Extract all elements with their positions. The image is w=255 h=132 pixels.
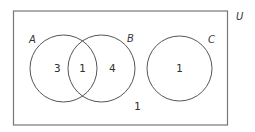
region-only-c-count: 1 [176,62,183,75]
universe-label: U [236,11,244,22]
venn-diagram: U A B C 3 1 4 1 1 [0,0,255,132]
region-only-a-count: 3 [54,62,61,75]
region-a-and-b-count: 1 [79,62,86,75]
set-c-label: C [208,34,215,45]
set-b-label: B [127,33,134,44]
set-a-label: A [28,34,36,45]
set-a-circle [30,35,97,102]
region-only-b-count: 4 [109,62,116,75]
region-outside-count: 1 [134,100,141,113]
universe-rectangle [14,11,228,125]
